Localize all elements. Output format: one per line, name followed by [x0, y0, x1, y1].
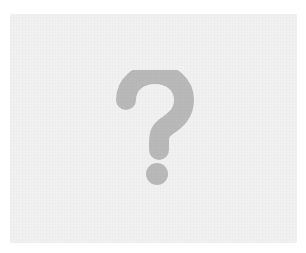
- missing-image-placeholder: ?: [10, 14, 297, 243]
- placeholder-label: ?: [10, 14, 11, 15]
- question-mark-icon: [114, 70, 194, 188]
